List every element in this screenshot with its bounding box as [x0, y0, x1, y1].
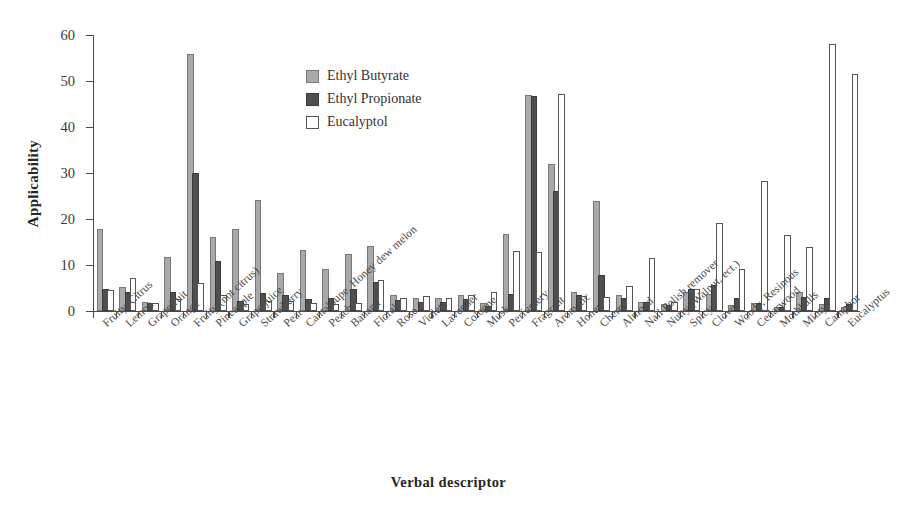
- bar-group: [187, 35, 202, 311]
- legend-item-eucalyptol: Eucalyptol: [306, 114, 422, 130]
- x-axis-tick: [770, 311, 771, 318]
- bar-group: [210, 35, 225, 311]
- y-axis-tick-label: 0: [68, 303, 75, 320]
- x-axis-tick: [251, 311, 252, 318]
- x-axis-tick: [138, 311, 139, 318]
- x-axis-tick: [747, 311, 748, 318]
- bar: [784, 235, 791, 311]
- bar: [829, 44, 836, 311]
- bar-group: [142, 35, 157, 311]
- x-axis-tick: [273, 311, 274, 318]
- bar: [175, 299, 182, 311]
- bar-group: [683, 35, 698, 311]
- x-axis-tick: [837, 311, 838, 318]
- bar-group: [119, 35, 134, 311]
- bar: [423, 296, 430, 311]
- x-axis-tick: [116, 311, 117, 318]
- y-axis-tick: 30: [86, 173, 93, 174]
- bar: [513, 251, 520, 311]
- x-axis-tick: [657, 311, 658, 318]
- x-axis-tick: [409, 311, 410, 318]
- legend-label: Ethyl Propionate: [327, 91, 422, 107]
- bar: [220, 295, 227, 311]
- x-axis-tick: [477, 311, 478, 318]
- x-axis-tick: [386, 311, 387, 318]
- bar-group: [435, 35, 450, 311]
- x-axis-tick: [792, 311, 793, 318]
- x-axis-tick: [206, 311, 207, 318]
- bar-group: [277, 35, 292, 311]
- bar-group: [819, 35, 834, 311]
- x-axis-tick: [454, 311, 455, 318]
- bar-group: [548, 35, 563, 311]
- y-axis-line: [93, 35, 94, 311]
- bar: [265, 301, 272, 311]
- bar-group: [571, 35, 586, 311]
- plot-area: 0102030405060: [93, 35, 860, 311]
- y-axis-tick: 50: [86, 81, 93, 82]
- y-axis-tick-label: 30: [61, 165, 76, 182]
- bar: [232, 229, 239, 311]
- bar: [468, 295, 475, 311]
- x-axis-tick: [702, 311, 703, 318]
- chart-figure: Applicability 0102030405060 Fruity, Citr…: [0, 0, 897, 524]
- bar: [288, 301, 295, 311]
- bar-group: [706, 35, 721, 311]
- bar-group: [593, 35, 608, 311]
- chart-legend: Ethyl Butyrate Ethyl Propionate Eucalypt…: [306, 68, 422, 137]
- bar-group: [232, 35, 247, 311]
- x-axis-tick: [431, 311, 432, 318]
- bar: [581, 296, 588, 311]
- bar: [852, 74, 859, 311]
- bar: [378, 280, 385, 311]
- y-axis-tick-label: 10: [61, 257, 76, 274]
- bar: [716, 223, 723, 311]
- bar: [806, 247, 813, 311]
- bar: [355, 303, 362, 311]
- legend-label: Eucalyptol: [327, 114, 388, 130]
- x-axis-tick: [522, 311, 523, 318]
- legend-swatch-icon: [306, 116, 319, 129]
- bar: [130, 278, 137, 311]
- bar: [310, 303, 317, 311]
- bar: [536, 252, 543, 311]
- x-axis-tick: [544, 311, 545, 318]
- y-axis-tick: 0: [86, 311, 93, 312]
- x-axis-tick: [612, 311, 613, 318]
- bar: [243, 304, 250, 311]
- x-axis-tick: [183, 311, 184, 318]
- legend-swatch-icon: [306, 70, 319, 83]
- legend-label: Ethyl Butyrate: [327, 68, 409, 84]
- bar: [400, 298, 407, 311]
- bar-group: [503, 35, 518, 311]
- legend-swatch-icon: [306, 93, 319, 106]
- legend-item-ethyl-propionate: Ethyl Propionate: [306, 91, 422, 107]
- x-axis-tick: [499, 311, 500, 318]
- bar-group: [525, 35, 540, 311]
- y-axis-tick-label: 20: [61, 211, 76, 228]
- x-axis-tick: [161, 311, 162, 318]
- bar: [739, 269, 746, 311]
- bar: [197, 283, 204, 311]
- y-axis-tick-label: 50: [61, 73, 76, 90]
- bar-group: [255, 35, 270, 311]
- bar-group: [751, 35, 766, 311]
- bar: [446, 298, 453, 312]
- x-axis-tick: [680, 311, 681, 318]
- y-axis-tick: 10: [86, 265, 93, 266]
- x-axis-tick: [228, 311, 229, 318]
- y-axis-tick: 60: [86, 35, 93, 36]
- bar-group: [728, 35, 743, 311]
- bar: [626, 286, 633, 311]
- bar-group: [480, 35, 495, 311]
- bar: [649, 258, 656, 311]
- x-axis-tick: [815, 311, 816, 318]
- y-axis-tick-label: 60: [61, 27, 76, 44]
- bar: [761, 181, 768, 311]
- bar-group: [458, 35, 473, 311]
- x-axis-tick: [567, 311, 568, 318]
- bar: [107, 290, 114, 311]
- x-axis-tick: [93, 311, 94, 318]
- bar-group: [638, 35, 653, 311]
- bar-group: [796, 35, 811, 311]
